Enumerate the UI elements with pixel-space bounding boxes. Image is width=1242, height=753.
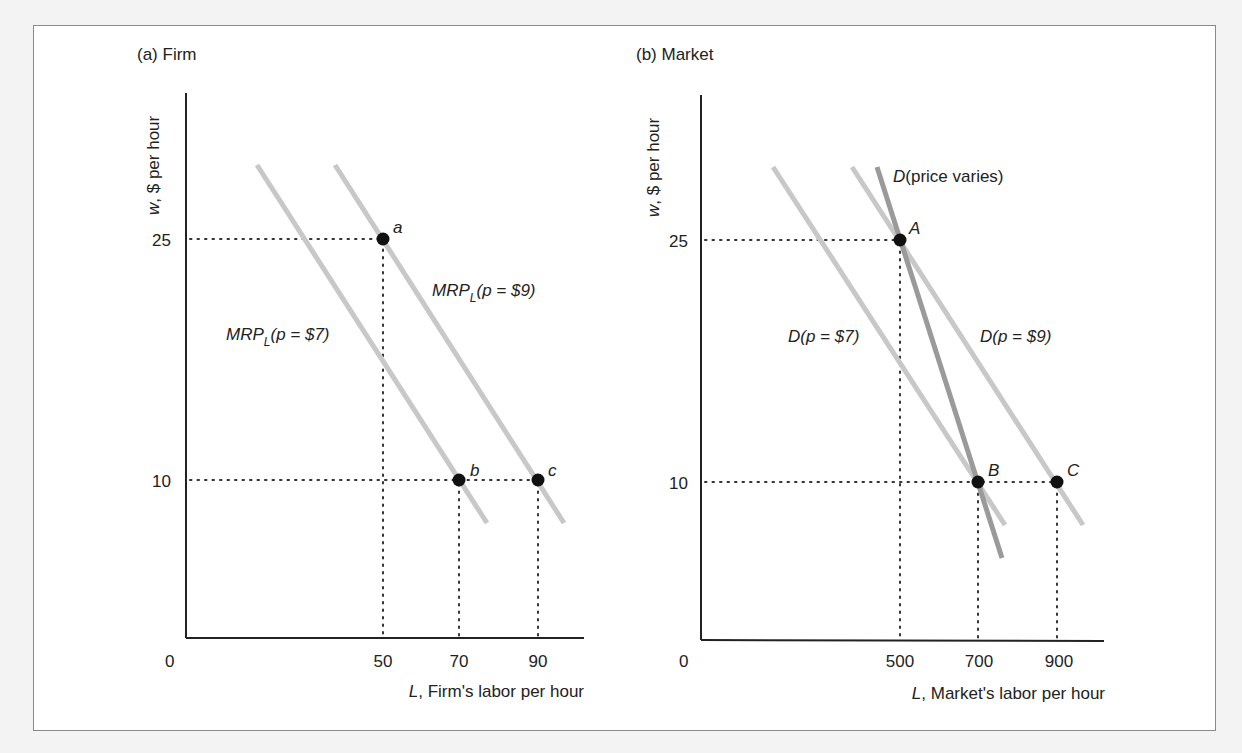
point-label-a: a: [393, 218, 402, 237]
figure-canvas: (a) Firm w, $ per hour a b c MRPL(p = $7…: [0, 0, 1242, 753]
point-label-b: b: [470, 461, 479, 480]
curve-label-d-p9: D(p = $9): [980, 327, 1051, 346]
y-tick-25: 25: [152, 231, 171, 250]
point-a: [377, 233, 390, 246]
curve-d-price-varies: [877, 167, 1002, 558]
x-axis-label: L, Firm's labor per hour: [409, 682, 585, 701]
panel-firm: (a) Firm w, $ per hour a b c MRPL(p = $7…: [137, 45, 584, 701]
y-tick-25: 25: [669, 232, 688, 251]
guide-lines: [705, 240, 1057, 638]
point-B: [972, 476, 985, 489]
x-axis: [701, 640, 1104, 641]
panel-title: (a) Firm: [137, 45, 196, 64]
y-tick-10: 10: [152, 472, 171, 491]
curve-label-mrp-p7: MRPL(p = $7): [226, 325, 330, 349]
point-C: [1051, 476, 1064, 489]
y-axis-label: w, $ per hour: [144, 115, 163, 215]
origin-label: 0: [165, 652, 174, 671]
x-tick-500: 500: [886, 652, 914, 671]
panel-market: (b) Market w, $ per hour A B C D(p = $7): [636, 45, 1105, 703]
curve-label-d-price-varies: D(price varies): [893, 167, 1004, 186]
point-label-C: C: [1067, 461, 1080, 480]
x-tick-90: 90: [529, 652, 548, 671]
x-tick-900: 900: [1045, 652, 1073, 671]
y-axis-label: w, $ per hour: [644, 117, 663, 217]
point-A: [894, 234, 907, 247]
origin-label: 0: [679, 652, 688, 671]
curve-label-d-p7: D(p = $7): [788, 327, 859, 346]
point-label-B: B: [988, 461, 999, 480]
x-tick-50: 50: [374, 652, 393, 671]
x-axis-label: L, Market's labor per hour: [912, 684, 1106, 703]
curve-label-mrp-p9: MRPL(p = $9): [432, 281, 536, 305]
y-tick-10: 10: [669, 474, 688, 493]
x-tick-70: 70: [450, 652, 469, 671]
x-tick-700: 700: [965, 652, 993, 671]
point-label-c: c: [548, 461, 557, 480]
point-b: [453, 474, 466, 487]
panel-title: (b) Market: [636, 45, 714, 64]
point-label-A: A: [908, 219, 920, 238]
point-c: [532, 474, 545, 487]
